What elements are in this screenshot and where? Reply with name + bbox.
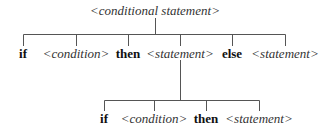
node-condition: <condition> [43, 47, 110, 61]
node2-condition: <condition> [121, 112, 188, 126]
node-then: then [116, 47, 141, 61]
node2-if: if [100, 112, 108, 126]
node-statement: <statement> [146, 47, 213, 61]
node-statement-2: <statement> [251, 47, 318, 61]
node-else: else [222, 47, 242, 61]
node2-then: then [194, 112, 219, 126]
root-node: <conditional statement> [90, 4, 220, 18]
node-if: if [19, 47, 27, 61]
node2-statement: <statement> [225, 112, 292, 126]
